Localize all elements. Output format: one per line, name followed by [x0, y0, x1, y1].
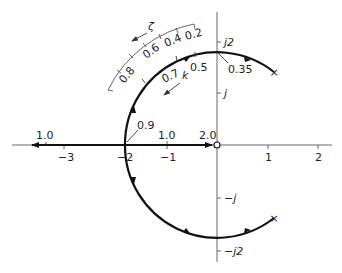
root-locus-figure: −3 −2 −1 1 2 j2 j −j −j2 × × — [0, 0, 342, 273]
real-tick-label: 1 — [265, 151, 272, 164]
zeta-symbol: ζ — [147, 20, 155, 33]
zeta-scale-label: 0.8 — [116, 64, 137, 86]
zeta-direction-arrow-icon — [132, 33, 147, 41]
k-label-crossing: 0.35 — [228, 63, 253, 76]
imaginary-axis: j2 j −j −j2 — [217, 12, 243, 262]
k-symbol: k — [182, 69, 189, 82]
imag-tick-label: j2 — [222, 36, 234, 49]
imag-tick-label: j — [222, 87, 228, 100]
pole-marker-icon: × — [269, 66, 278, 79]
imag-tick-label: −j — [224, 192, 237, 205]
root-locus-lower-branch — [125, 145, 274, 238]
k-label: 0.5 — [190, 61, 208, 74]
real-tick-label: 2 — [315, 151, 322, 164]
real-tick-label: −3 — [58, 151, 74, 164]
k-label-real-axis: 1.0 — [36, 129, 54, 142]
k-label-breakin: 0.9 — [137, 119, 155, 132]
zeta-scale-label: 0.2 — [183, 26, 203, 43]
zero-marker-icon — [214, 142, 220, 148]
poles: × × — [269, 66, 278, 225]
k-label-real-axis: 2.0 — [199, 129, 217, 142]
gain-labels: 0.5 0.7 k 0.35 0.9 1.0 1.0 2.0 — [36, 52, 253, 145]
imag-tick-label: −j2 — [224, 245, 243, 258]
zeta-scale-label: 0.4 — [162, 31, 183, 50]
real-tick-label: −1 — [160, 151, 176, 164]
k-label-real-axis: 1.0 — [158, 129, 176, 142]
pole-marker-icon: × — [269, 212, 278, 225]
